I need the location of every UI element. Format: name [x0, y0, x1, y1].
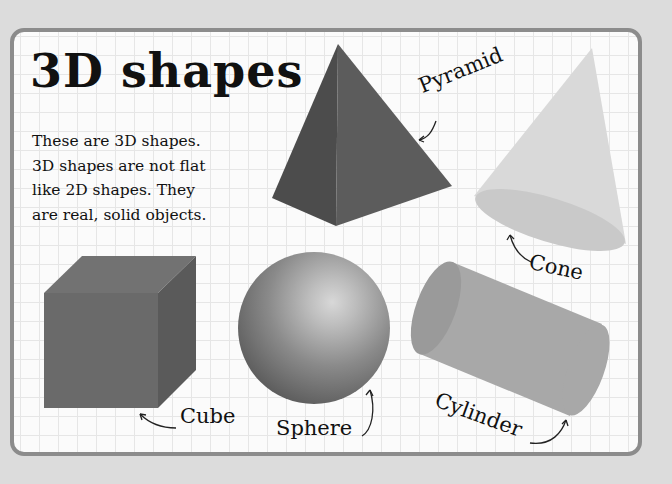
- sphere-arrow-icon: [362, 390, 373, 436]
- sphere-shape: [238, 252, 390, 404]
- cylinder-shape: [400, 255, 619, 421]
- sphere-label: Sphere: [276, 416, 352, 440]
- shapes-illustration: [0, 0, 672, 484]
- cube-label: Cube: [180, 404, 235, 428]
- cube-shape: [44, 256, 196, 408]
- cone-shape: [469, 48, 631, 264]
- cube-arrow-icon: [140, 414, 176, 428]
- cylinder-arrow-icon: [530, 420, 566, 443]
